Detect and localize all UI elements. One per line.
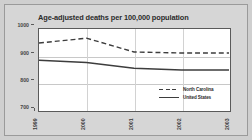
chart-title: Age-adjusted deaths per 100,000 populati… [38, 13, 189, 22]
y-tick-label-900: 900 [7, 50, 29, 56]
x-tick-label-2003: 2003 [224, 118, 230, 130]
legend-dashed-line-icon [159, 87, 179, 92]
y-tick-mark [31, 24, 34, 25]
x-tick-mark [34, 108, 35, 111]
series-line-united-states [39, 60, 229, 70]
y-tick-mark [31, 79, 34, 80]
chart-canvas: Age-adjusted deaths per 100,000 populati… [4, 4, 248, 136]
legend-item-north-carolina: North Carolina [159, 85, 231, 93]
x-tick-label-2000: 2000 [80, 118, 86, 130]
legend-label-united-states: United States [183, 95, 211, 100]
x-tick-label-1999: 1999 [32, 118, 38, 130]
x-tick-label-2002: 2002 [176, 118, 182, 130]
legend-label-north-carolina: North Carolina [183, 87, 214, 92]
x-tick-label-2001: 2001 [128, 118, 134, 130]
series-line-north-carolina [39, 38, 229, 53]
chart-figure: Age-adjusted deaths per 100,000 populati… [0, 0, 252, 140]
legend-solid-line-icon [159, 95, 179, 100]
y-tick-mark [31, 52, 34, 53]
y-tick-label-1000: 1000 [7, 22, 29, 28]
y-tick-label-700: 700 [7, 104, 29, 110]
y-tick-label-800: 800 [7, 77, 29, 83]
chart-legend: North Carolina United States [159, 85, 231, 101]
plot-area: North Carolina United States [38, 28, 231, 112]
legend-item-united-states: United States [159, 93, 231, 101]
y-tick-mark [31, 107, 34, 108]
